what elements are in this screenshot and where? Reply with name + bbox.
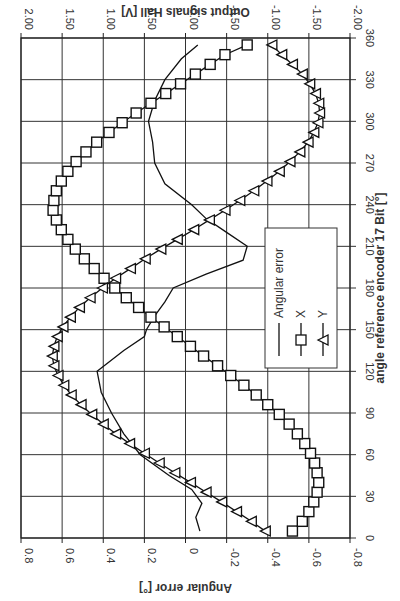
square-marker	[51, 215, 61, 225]
square-marker	[63, 166, 73, 176]
triangle-marker	[204, 215, 214, 225]
square-marker	[92, 137, 102, 147]
triangle-marker	[246, 516, 256, 526]
right-axis-tick-label: -1.50	[311, 5, 323, 30]
square-marker	[48, 205, 58, 215]
square-marker	[56, 176, 66, 186]
square-marker	[146, 98, 156, 108]
legend-label: Angular error	[272, 248, 286, 318]
chart-canvas: 0.80.60.40.20-0.2-0.4-0.6-0.82.001.501.0…	[0, 0, 400, 601]
square-marker	[134, 302, 144, 312]
square-marker	[304, 507, 314, 517]
angle-axis-tick-label: 300	[364, 112, 376, 130]
square-marker	[306, 448, 316, 458]
square-marker	[292, 429, 302, 439]
triangle-marker	[189, 225, 199, 235]
triangle-marker	[260, 526, 270, 536]
angle-axis-tick-label: 0	[364, 535, 376, 541]
triangle-marker	[217, 497, 227, 507]
triangle-marker	[231, 507, 241, 517]
left-axis-tick-label: 0.8	[23, 548, 35, 563]
square-marker	[79, 254, 89, 264]
square-marker	[297, 516, 307, 526]
square-marker	[220, 50, 230, 60]
angle-axis-tick-label: 30	[364, 490, 376, 502]
square-marker	[205, 59, 215, 69]
left-axis-tick-label: -0.6	[311, 548, 323, 567]
triangle-marker	[305, 79, 315, 89]
triangle-marker	[220, 205, 230, 215]
angle-axis-tick-label: 60	[364, 449, 376, 461]
square-marker	[314, 477, 324, 487]
triangle-marker	[172, 234, 182, 244]
left-axis-tick-label: 0.6	[64, 548, 76, 563]
square-marker	[63, 234, 73, 244]
square-marker	[70, 244, 80, 254]
right-axis-tick-label: -2.00	[352, 5, 364, 30]
square-marker	[309, 497, 319, 507]
left-axis-tick-label: 0.4	[105, 548, 117, 563]
legend-square-icon	[296, 335, 306, 345]
square-marker	[242, 40, 252, 50]
square-marker	[300, 439, 310, 449]
square-marker	[99, 273, 109, 283]
left-axis-tick-label: -0.8	[352, 548, 364, 567]
triangle-marker	[52, 332, 62, 342]
triangle-marker	[267, 40, 277, 50]
right-axis-tick-label: 1.50	[64, 9, 76, 30]
square-marker	[287, 526, 297, 536]
square-marker	[110, 283, 120, 293]
square-marker	[312, 468, 322, 478]
square-marker	[121, 293, 131, 303]
square-marker	[172, 332, 182, 342]
square-marker	[226, 371, 236, 381]
right-axis-tick-label: 1.00	[105, 9, 117, 30]
right-axis-tick-label: 2.00	[23, 9, 35, 30]
left-axis-tick-label: -0.2	[229, 548, 241, 567]
triangle-marker	[125, 264, 135, 274]
triangle-marker	[65, 312, 75, 322]
square-marker	[49, 196, 59, 206]
square-marker	[56, 225, 66, 235]
triangle-marker	[235, 196, 245, 206]
square-marker	[131, 108, 141, 118]
triangle-marker	[59, 380, 69, 390]
x-axis-title: angle reference encoder 17 Bit [°]	[373, 193, 387, 384]
legend-label: X	[294, 310, 308, 318]
angle-axis-tick-label: 360	[364, 29, 376, 47]
square-marker	[159, 322, 169, 332]
square-marker	[117, 118, 127, 128]
square-marker	[284, 419, 294, 429]
square-marker	[263, 400, 273, 410]
right-axis-title: Output signals Hall [V]	[121, 5, 250, 19]
square-marker	[51, 186, 61, 196]
left-axis-tick-label: -0.4	[270, 548, 282, 567]
triangle-marker	[201, 487, 211, 497]
right-axis-tick-label: -1.00	[270, 5, 282, 30]
angle-axis-tick-label: 330	[364, 70, 376, 88]
square-marker	[161, 89, 171, 99]
angle-axis-tick-label: 270	[364, 154, 376, 172]
square-marker	[274, 409, 284, 419]
angle-axis-tick-label: 90	[364, 407, 376, 419]
square-marker	[185, 341, 195, 351]
left-axis-title: Angular error [°]	[139, 581, 232, 595]
square-marker	[104, 127, 114, 137]
square-marker	[310, 458, 320, 468]
square-marker	[71, 157, 81, 167]
left-axis-tick-label: 0.2	[146, 548, 158, 563]
triangle-marker	[262, 176, 272, 186]
triangle-marker	[249, 186, 259, 196]
square-marker	[239, 380, 249, 390]
square-marker	[81, 147, 91, 157]
triangle-marker	[53, 371, 63, 381]
triangle-marker	[140, 254, 150, 264]
square-marker	[146, 312, 156, 322]
square-marker	[213, 361, 223, 371]
triangle-marker	[309, 127, 319, 137]
square-marker	[199, 351, 209, 361]
square-marker	[251, 390, 261, 400]
triangle-marker	[58, 322, 68, 332]
triangle-marker	[66, 390, 76, 400]
square-marker	[176, 79, 186, 89]
